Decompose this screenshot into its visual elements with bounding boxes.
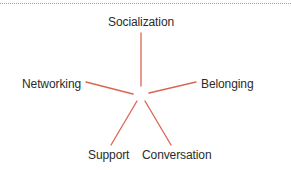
node-label-conversation: Conversation [142,148,212,162]
node-label-networking: Networking [22,77,81,91]
node-label-support: Support [88,148,129,162]
spoke-belonging [149,82,196,93]
spoke-support [111,101,137,145]
node-label-socialization: Socialization [108,15,174,29]
spoke-networking [86,82,133,94]
spoke-conversation [145,101,171,145]
node-label-belonging: Belonging [201,77,253,91]
